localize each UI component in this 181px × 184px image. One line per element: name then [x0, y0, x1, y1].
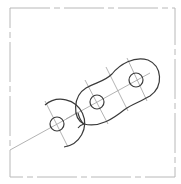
centerline: [10, 73, 150, 150]
drawing-canvas: [0, 0, 181, 184]
drawing-frame: [10, 8, 175, 177]
hole-right: [129, 73, 143, 87]
drawing-svg: [0, 0, 181, 184]
lobe-outline: [76, 59, 160, 125]
